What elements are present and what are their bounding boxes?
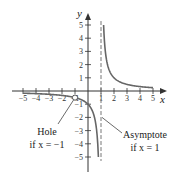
x-tick-label: −4 — [32, 94, 41, 103]
y-tick-label: 5 — [79, 21, 83, 30]
hole-annotation-line2: if x = −1 — [30, 139, 65, 150]
hole-marker — [72, 95, 77, 100]
y-axis-label: y — [76, 7, 82, 19]
hole-leader-line — [58, 100, 74, 124]
x-tick-label: −3 — [45, 94, 54, 103]
y-tick-label: 1 — [79, 74, 83, 83]
y-tick-label: 4 — [79, 34, 83, 43]
y-tick-label: −5 — [74, 153, 83, 162]
y-tick-label: −4 — [74, 140, 83, 149]
y-tick-label: −1 — [74, 100, 83, 109]
y-tick-label: 3 — [79, 47, 83, 56]
x-tick-label: 5 — [151, 94, 155, 103]
y-tick-label: −3 — [74, 127, 83, 136]
y-axis-arrow-icon — [85, 13, 91, 20]
hole-annotation-line1: Hole — [37, 126, 57, 137]
x-tick-label: −5 — [19, 94, 28, 103]
x-axis-label: x — [159, 93, 165, 105]
x-tick-label: 2 — [112, 94, 116, 103]
asymptote-annotation-line2: if x = 1 — [130, 142, 159, 153]
x-tick-label: 4 — [138, 94, 142, 103]
x-tick-label: 3 — [125, 94, 129, 103]
asymptote-leader-line — [102, 117, 122, 133]
asymptote-annotation-line1: Asymptote — [123, 129, 167, 140]
y-tick-label: 2 — [79, 61, 83, 70]
curve-right-branch — [104, 25, 153, 88]
function-graph: −5−4−3−2−112345−5−4−3−2−112345 x y Hole … — [0, 0, 179, 181]
y-tick-label: −2 — [74, 113, 83, 122]
